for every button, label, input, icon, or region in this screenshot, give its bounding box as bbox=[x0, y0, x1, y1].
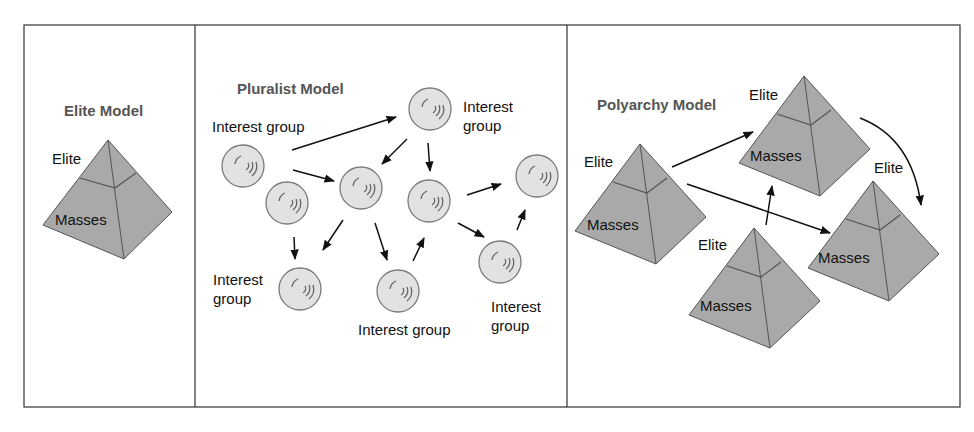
elite-label: Elite bbox=[874, 159, 903, 176]
masses-label: Masses bbox=[700, 297, 752, 314]
elite-label: Elite bbox=[52, 150, 81, 167]
interest-group-label: group bbox=[213, 290, 251, 307]
elite-model-title: Elite Model bbox=[64, 102, 143, 119]
elite-label: Elite bbox=[698, 236, 727, 253]
interest-group-node bbox=[516, 155, 558, 197]
masses-label: Masses bbox=[55, 211, 107, 228]
interest-group-node bbox=[222, 145, 264, 187]
interest-group-label: Interest group bbox=[358, 321, 451, 338]
interest-group-label: Interest group bbox=[212, 118, 305, 135]
interest-group-label: group bbox=[463, 117, 501, 134]
masses-label: Masses bbox=[587, 216, 639, 233]
interest-group-node bbox=[279, 268, 321, 310]
interest-group-node bbox=[377, 270, 419, 312]
elite-label: Elite bbox=[749, 86, 778, 103]
masses-label: Masses bbox=[750, 147, 802, 164]
polyarchy-model-panel: Polyarchy Model Elite Masses Elite Masse… bbox=[575, 76, 939, 348]
elite-label: Elite bbox=[584, 153, 613, 170]
pluralist-model-panel: Pluralist Model Interest group Interest bbox=[212, 80, 558, 338]
interest-group-label: Interest bbox=[213, 271, 264, 288]
interest-group-node bbox=[409, 88, 451, 130]
interest-group-label: Interest bbox=[491, 298, 542, 315]
polyarchy-model-title: Polyarchy Model bbox=[597, 96, 716, 113]
interest-group-label: Interest bbox=[463, 98, 514, 115]
interest-group-node bbox=[266, 182, 308, 224]
diagram-canvas: Elite Model Elite Masses Pluralist Model bbox=[0, 0, 974, 432]
interest-group-node bbox=[340, 167, 382, 209]
masses-label: Masses bbox=[818, 249, 870, 266]
influence-arrows bbox=[292, 117, 525, 261]
elite-model-panel: Elite Model Elite Masses bbox=[43, 102, 172, 259]
interest-group-node bbox=[479, 241, 521, 283]
interest-group-label: group bbox=[491, 317, 529, 334]
interest-group-node bbox=[408, 180, 450, 222]
pluralist-model-title: Pluralist Model bbox=[237, 80, 344, 97]
